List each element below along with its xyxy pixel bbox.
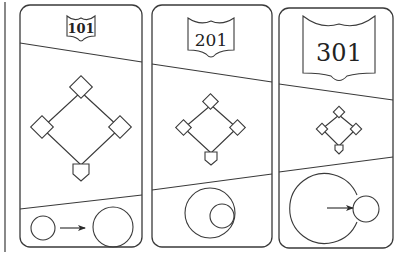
panel-201: 201 bbox=[152, 5, 272, 247]
panel-301: 301 bbox=[279, 8, 393, 248]
badge-label: 101 bbox=[67, 21, 94, 36]
badge-label: 301 bbox=[316, 39, 362, 67]
diagram-canvas: 101 201 bbox=[0, 0, 397, 254]
level-badge: 301 bbox=[303, 16, 375, 81]
panel-101: 101 bbox=[20, 5, 142, 247]
badge-label: 201 bbox=[195, 30, 227, 50]
